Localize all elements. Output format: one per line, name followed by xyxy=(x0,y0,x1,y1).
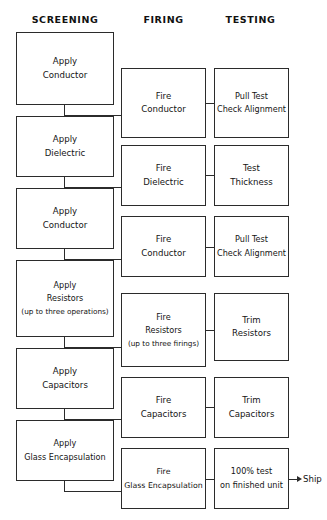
node-testing-3-line1: Pull Test xyxy=(235,233,268,247)
node-firing-6-line2: Glass Encapsulation xyxy=(124,479,202,493)
node-firing-2-line1: Fire xyxy=(156,162,171,176)
arrow-right-icon xyxy=(289,476,302,483)
node-screening-5-line2: Capacitors xyxy=(42,379,88,393)
process-flowchart: SCREENING FIRING TESTING Apply Conductor… xyxy=(0,0,327,520)
connector-screening-6-to-firing-6 xyxy=(64,491,122,492)
node-screening-6-line2: Glass Encapsulation xyxy=(24,451,105,465)
node-testing-6-line1: 100% test xyxy=(231,465,272,479)
node-screening-4-line2: Resistors xyxy=(47,292,84,305)
node-firing-6-line1: Fire xyxy=(157,465,171,479)
node-screening-3-line1: Apply xyxy=(53,205,77,219)
node-firing-2-line2: Dielectric xyxy=(143,176,184,190)
node-firing-4-line2: Resistors xyxy=(145,324,182,337)
node-screening-4-line1: Apply xyxy=(54,279,77,292)
node-screening-6[interactable]: Apply Glass Encapsulation xyxy=(16,420,114,481)
node-firing-2[interactable]: Fire Dielectric xyxy=(121,145,206,206)
node-testing-2-line2: Thickness xyxy=(230,176,272,190)
node-firing-1[interactable]: Fire Conductor xyxy=(121,68,206,138)
column-header-screening: SCREENING xyxy=(16,14,114,26)
node-screening-6-line1: Apply xyxy=(54,437,77,451)
node-screening-2-line2: Dielectric xyxy=(45,147,86,161)
node-firing-6[interactable]: Fire Glass Encapsulation xyxy=(121,448,206,509)
node-testing-5-line2: Capacitors xyxy=(229,408,275,422)
node-firing-5-line1: Fire xyxy=(156,394,171,408)
node-testing-5[interactable]: Trim Capacitors xyxy=(214,377,289,438)
node-testing-1-line1: Pull Test xyxy=(235,90,268,104)
node-screening-1-line2: Conductor xyxy=(43,69,88,83)
node-testing-5-line1: Trim xyxy=(242,394,260,408)
node-firing-4-line1: Fire xyxy=(156,311,170,324)
node-testing-2[interactable]: Test Thickness xyxy=(214,145,289,206)
ship-label: Ship xyxy=(303,474,322,484)
node-testing-6-line2: on finished unit xyxy=(220,479,283,493)
node-firing-4-line3: (up to three firings) xyxy=(128,337,199,350)
node-testing-6[interactable]: 100% test on finished unit xyxy=(214,448,289,509)
node-screening-3-line2: Conductor xyxy=(43,219,88,233)
node-firing-3-line1: Fire xyxy=(156,233,171,247)
node-firing-3-line2: Conductor xyxy=(141,247,186,261)
node-screening-5[interactable]: Apply Capacitors xyxy=(16,348,114,409)
node-screening-3[interactable]: Apply Conductor xyxy=(16,188,114,249)
node-screening-5-line1: Apply xyxy=(53,365,77,379)
node-testing-1[interactable]: Pull Test Check Alignment xyxy=(214,68,289,138)
node-screening-4[interactable]: Apply Resistors (up to three operations) xyxy=(16,260,114,337)
node-firing-1-line2: Conductor xyxy=(141,103,186,117)
node-firing-4[interactable]: Fire Resistors (up to three firings) xyxy=(121,293,206,367)
node-testing-4[interactable]: Trim Resistors xyxy=(214,293,289,361)
ship-output: Ship xyxy=(289,474,322,484)
node-testing-3-line2: Check Alignment xyxy=(217,247,286,261)
node-testing-4-line2: Resistors xyxy=(232,327,271,341)
node-testing-3[interactable]: Pull Test Check Alignment xyxy=(214,216,289,277)
node-screening-4-line3: (up to three operations) xyxy=(21,305,108,318)
node-screening-1-line1: Apply xyxy=(53,55,77,69)
node-screening-2-line1: Apply xyxy=(53,133,77,147)
node-testing-4-line1: Trim xyxy=(242,314,260,328)
node-firing-5-line2: Capacitors xyxy=(141,408,187,422)
node-testing-1-line2: Check Alignment xyxy=(217,103,286,117)
node-screening-1[interactable]: Apply Conductor xyxy=(16,32,114,105)
node-firing-1-line1: Fire xyxy=(156,90,171,104)
node-testing-2-line1: Test xyxy=(243,162,260,176)
column-header-firing: FIRING xyxy=(121,14,206,26)
column-header-testing: TESTING xyxy=(213,14,288,26)
node-firing-5[interactable]: Fire Capacitors xyxy=(121,377,206,438)
node-screening-2[interactable]: Apply Dielectric xyxy=(16,116,114,177)
node-firing-3[interactable]: Fire Conductor xyxy=(121,216,206,277)
